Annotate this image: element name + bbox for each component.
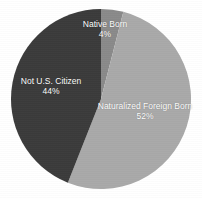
pie-label-naturalized-foreign-born-percent: 52% [86,111,202,121]
pie-label-not-us-citizen-percent: 44% [8,86,94,96]
pie-label-not-us-citizen: Not U.S. Citizen 44% [8,76,94,96]
pie-label-native-born-percent: 4% [62,29,148,39]
pie-label-native-born-text: Native Born [62,19,148,29]
pie-label-naturalized-foreign-born-text: Naturalized Foreign Born [86,101,202,111]
pie-label-native-born: Native Born 4% [62,19,148,39]
pie-chart: Native Born 4% Naturalized Foreign Born … [0,0,202,198]
pie-label-naturalized-foreign-born: Naturalized Foreign Born 52% [86,101,202,121]
pie-label-not-us-citizen-text: Not U.S. Citizen [8,76,94,86]
